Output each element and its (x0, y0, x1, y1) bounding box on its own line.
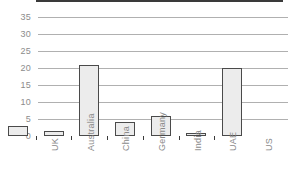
x-axis-tick (36, 136, 37, 140)
x-axis-category-label: India (194, 130, 203, 151)
x-axis-category-label: UK (51, 138, 60, 151)
bar-chart: 05101520253035 UKAustraliaChinaGermanyIn… (0, 0, 300, 195)
x-axis: UKAustraliaChinaGermanyIndiaUAEUS (38, 0, 288, 195)
x-axis-category-label: China (122, 126, 131, 151)
bar-slot (0, 0, 36, 136)
x-axis-category-label: UAE (229, 132, 238, 151)
bar[interactable] (8, 126, 28, 136)
x-axis-category-label: Germany (158, 112, 167, 151)
x-axis-category-label: US (265, 138, 274, 151)
x-axis-category-label: Australia (87, 113, 96, 151)
